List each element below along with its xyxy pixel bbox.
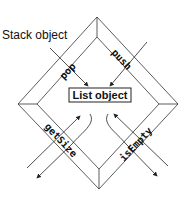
op-isempty-label: isEmpty [117, 125, 154, 163]
list-object-label: List object [72, 89, 127, 101]
op-getsize-label: getSize [43, 121, 80, 159]
op-push-label: push [110, 47, 134, 72]
list-object-box: List object [69, 88, 131, 102]
stack-object-label: Stack object [2, 28, 68, 42]
operation-arrows [27, 42, 168, 178]
stack-list-diagram: Stack object List object pop push getSiz… [0, 0, 189, 201]
stack-object-frame [18, 17, 178, 189]
